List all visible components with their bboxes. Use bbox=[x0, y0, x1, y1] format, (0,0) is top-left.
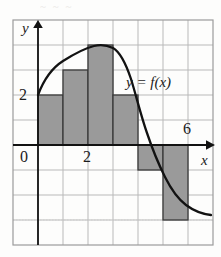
riemann-rect bbox=[63, 70, 88, 145]
y-axis-arrowhead bbox=[33, 20, 43, 28]
curve-equation-label: y = f(x) bbox=[126, 74, 171, 91]
y-tick-label-2: 2 bbox=[19, 86, 27, 104]
x-axis-label: x bbox=[201, 152, 208, 169]
y-axis-label: y bbox=[22, 20, 29, 37]
riemann-sum-figure: ~ ~ ~ bbox=[0, 0, 221, 257]
origin-label: 0 bbox=[20, 148, 28, 166]
riemann-rect bbox=[38, 95, 63, 145]
x-axis-arrowhead bbox=[206, 140, 215, 150]
riemann-rect bbox=[113, 95, 138, 145]
x-tick-label-6: 6 bbox=[183, 120, 191, 138]
riemann-rect bbox=[88, 45, 113, 145]
x-tick-label-2: 2 bbox=[83, 148, 91, 166]
